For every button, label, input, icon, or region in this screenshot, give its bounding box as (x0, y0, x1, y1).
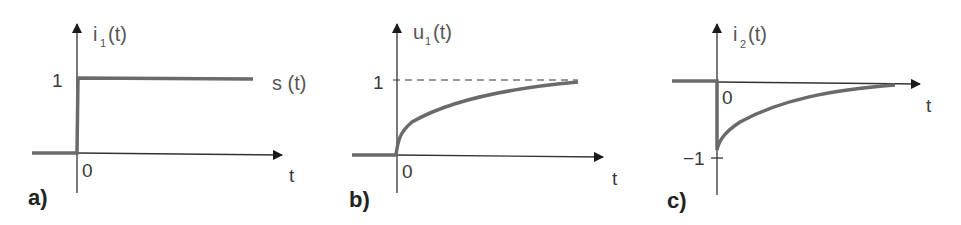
tick-origin: 0 (722, 87, 733, 108)
tick-origin: 0 (402, 161, 413, 182)
panel-label: b) (349, 187, 370, 212)
panel-b: 1 0 t b) u 1 (t) (349, 21, 618, 212)
svg-text:1: 1 (425, 35, 431, 47)
x-label: t (289, 165, 295, 186)
rising-curve (352, 82, 578, 155)
tick-y: 1 (373, 72, 384, 93)
y-label: u (413, 21, 424, 43)
svg-text:2: 2 (740, 38, 746, 50)
svg-text:1: 1 (100, 37, 106, 49)
svg-text:(t): (t) (108, 23, 127, 45)
panel-a: 1 0 t a) s (t) i 1 (t) (28, 23, 306, 210)
x-axis (77, 153, 282, 155)
panel-label: a) (28, 185, 48, 210)
svg-text:(t): (t) (748, 23, 767, 45)
figure: 1 0 t a) s (t) i 1 (t) 1 0 t b) u 1 (t) … (0, 0, 961, 225)
x-label: t (612, 168, 618, 189)
x-label: t (926, 95, 932, 116)
y-label: i (733, 23, 737, 45)
step-curve (32, 78, 253, 153)
tick-origin: 0 (82, 160, 93, 181)
curve-label: s (t) (272, 72, 306, 94)
tick-y: 1 (52, 70, 63, 91)
tick-y: −1 (683, 148, 705, 169)
panel-label: c) (667, 188, 687, 213)
x-axis (397, 155, 603, 157)
decay-curve (672, 81, 895, 150)
y-label: i (93, 23, 97, 45)
svg-text:(t): (t) (433, 21, 452, 43)
panel-c: −1 0 t c) i 2 (t) (667, 23, 932, 213)
